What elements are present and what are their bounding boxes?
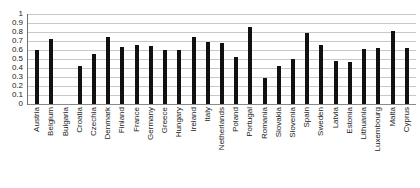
bar bbox=[177, 50, 181, 104]
bar-slot bbox=[329, 14, 343, 104]
x-axis-label-cyprus: Cyprus bbox=[403, 107, 411, 132]
bar bbox=[163, 50, 167, 104]
bar bbox=[305, 33, 309, 104]
y-axis-tick-1: 1 bbox=[19, 10, 23, 18]
bar bbox=[35, 50, 39, 104]
x-axis-label-netherlands: Netherlands bbox=[218, 107, 226, 150]
bar-slot bbox=[115, 14, 129, 104]
bar-slot bbox=[300, 14, 314, 104]
y-axis-tick-0.3: 0.3 bbox=[12, 73, 23, 81]
x-axis-label-italy: Italy bbox=[204, 107, 212, 122]
x-label-slot: Netherlands bbox=[215, 107, 229, 187]
x-axis-label-luxembourg: Luxembourg bbox=[374, 107, 382, 151]
x-label-slot: Italy bbox=[201, 107, 215, 187]
y-axis-tick-0: 0 bbox=[19, 100, 23, 108]
bar-slot bbox=[58, 14, 72, 104]
bar bbox=[206, 42, 210, 104]
x-label-slot: Poland bbox=[229, 107, 243, 187]
bar-slot bbox=[201, 14, 215, 104]
bar bbox=[376, 48, 380, 104]
y-axis-tick-0.8: 0.8 bbox=[12, 28, 23, 36]
x-axis-label-finland: Finland bbox=[118, 107, 126, 133]
bar bbox=[234, 57, 238, 104]
x-label-slot: Germany bbox=[144, 107, 158, 187]
x-axis-label-latvia: Latvia bbox=[332, 107, 340, 128]
x-label-slot: Belgium bbox=[44, 107, 58, 187]
x-axis-label-portugal: Portugal bbox=[246, 107, 254, 137]
x-label-slot: Luxembourg bbox=[371, 107, 385, 187]
x-label-slot: Slovenia bbox=[286, 107, 300, 187]
bar-series bbox=[28, 14, 416, 104]
x-label-slot: Lithuania bbox=[357, 107, 371, 187]
bar-slot bbox=[101, 14, 115, 104]
bar bbox=[192, 37, 196, 104]
x-axis-label-croatia: Croatia bbox=[76, 107, 84, 133]
y-axis-tick-0.6: 0.6 bbox=[12, 46, 23, 54]
x-label-slot: Slovakia bbox=[272, 107, 286, 187]
x-label-slot: France bbox=[130, 107, 144, 187]
bar bbox=[49, 39, 53, 104]
bar bbox=[120, 47, 124, 104]
x-axis-label-romania: Romania bbox=[261, 107, 269, 139]
bar-slot bbox=[130, 14, 144, 104]
bar bbox=[291, 59, 295, 104]
x-axis-label-ireland: Ireland bbox=[190, 107, 198, 131]
x-label-slot: Portugal bbox=[243, 107, 257, 187]
x-axis-label-france: France bbox=[133, 107, 141, 132]
x-axis-label-greece: Greece bbox=[161, 107, 169, 133]
plot-area bbox=[28, 14, 416, 104]
x-label-slot: Romania bbox=[258, 107, 272, 187]
y-axis-tick-0.2: 0.2 bbox=[12, 82, 23, 90]
bar-slot bbox=[400, 14, 414, 104]
x-axis-label-slovakia: Slovakia bbox=[275, 107, 283, 137]
bar-slot bbox=[44, 14, 58, 104]
bar-slot bbox=[371, 14, 385, 104]
x-axis-label-lithuania: Lithuania bbox=[360, 107, 368, 139]
x-axis-label-denmark: Denmark bbox=[104, 107, 112, 139]
y-axis-tick-0.9: 0.9 bbox=[12, 19, 23, 27]
y-axis-tick-0.4: 0.4 bbox=[12, 64, 23, 72]
bar bbox=[334, 61, 338, 104]
bar bbox=[135, 45, 139, 104]
bar bbox=[405, 48, 409, 104]
y-axis-tick-labels: 00.10.20.30.40.50.60.70.80.91 bbox=[0, 0, 26, 188]
x-label-slot: Croatia bbox=[73, 107, 87, 187]
x-axis-label-poland: Poland bbox=[232, 107, 240, 132]
bar bbox=[277, 66, 281, 104]
x-label-slot: Malta bbox=[385, 107, 399, 187]
x-label-slot: Austria bbox=[30, 107, 44, 187]
axis-baseline bbox=[28, 104, 416, 105]
bar bbox=[263, 78, 267, 104]
bar-slot bbox=[286, 14, 300, 104]
x-axis-label-bulgaria: Bulgaria bbox=[62, 107, 70, 136]
x-axis-label-hungary: Hungary bbox=[175, 107, 183, 137]
bar bbox=[78, 66, 82, 104]
bar-slot bbox=[385, 14, 399, 104]
bar-slot bbox=[258, 14, 272, 104]
bar bbox=[348, 62, 352, 104]
x-label-slot: Spain bbox=[300, 107, 314, 187]
x-axis-category-labels: AustriaBelgiumBulgariaCroatiaCzechiaDenm… bbox=[28, 107, 416, 187]
bar-slot bbox=[215, 14, 229, 104]
bar-slot bbox=[158, 14, 172, 104]
bar bbox=[220, 43, 224, 104]
bar bbox=[391, 31, 395, 104]
x-axis-label-estonia: Estonia bbox=[346, 107, 354, 134]
x-label-slot: Denmark bbox=[101, 107, 115, 187]
bar bbox=[362, 49, 366, 104]
x-label-slot: Finland bbox=[115, 107, 129, 187]
bar bbox=[149, 46, 153, 104]
bar-slot bbox=[343, 14, 357, 104]
x-label-slot: Greece bbox=[158, 107, 172, 187]
bar-slot bbox=[30, 14, 44, 104]
x-label-slot: Latvia bbox=[329, 107, 343, 187]
bar-chart: 00.10.20.30.40.50.60.70.80.91 AustriaBel… bbox=[0, 0, 420, 188]
bar bbox=[319, 45, 323, 104]
x-axis-label-austria: Austria bbox=[33, 107, 41, 132]
bar-slot bbox=[87, 14, 101, 104]
x-axis-label-spain: Spain bbox=[303, 107, 311, 127]
bar-slot bbox=[272, 14, 286, 104]
bar-slot bbox=[144, 14, 158, 104]
x-axis-label-slovenia: Slovenia bbox=[289, 107, 297, 138]
x-axis-label-sweden: Sweden bbox=[317, 107, 325, 136]
